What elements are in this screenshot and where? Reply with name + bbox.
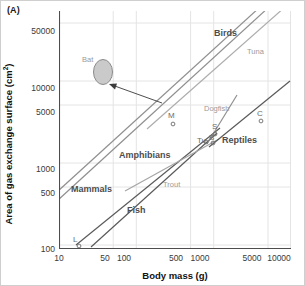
x-tick-label-100: 100 (111, 253, 137, 263)
y-tick-label-50000: 50000 (3, 26, 55, 36)
marker-dot-M (171, 122, 175, 126)
series-line-birds (59, 11, 260, 192)
annotation-dogfish: Dogfish (204, 105, 229, 113)
marker-label-L: L (73, 236, 77, 244)
marker-dot-C (259, 119, 263, 123)
annotation-bat: Bat (82, 56, 93, 64)
x-tick-label-1000: 1000 (185, 253, 215, 263)
annotation-birds: Birds (214, 29, 237, 38)
x-tick-label-10000: 10000 (261, 253, 297, 263)
y-tick-label-500: 500 (3, 188, 55, 198)
bat-ellipse (94, 60, 113, 85)
annotation-reptiles: Reptiles (222, 136, 257, 145)
annotation-trout: Trout (163, 181, 180, 189)
series-line-mammals (59, 11, 269, 201)
marker-label-S: S (212, 123, 217, 131)
x-axis-label: Body mass (g) (59, 270, 291, 281)
annotation-tuna: Tuna (247, 48, 264, 56)
marker-label-Tu: Tu (197, 137, 206, 145)
y-tick-label-1000: 1000 (3, 164, 55, 174)
marker-label-C: C (257, 110, 263, 118)
marker-label-B: B (209, 134, 214, 142)
annotation-amphibians: Amphibians (119, 151, 171, 160)
y-tick-label-10000: 10000 (3, 83, 55, 93)
plot-area: Birds Tuna Bat Dogfish Reptiles Amphibia… (59, 11, 291, 249)
annotation-fish: Fish (127, 206, 146, 215)
annotation-mammals: Mammals (71, 185, 112, 194)
x-tick-label-10: 10 (47, 253, 71, 263)
y-tick-label-5000: 5000 (3, 107, 55, 117)
marker-label-M: M (168, 112, 175, 120)
bat-arrow-line (112, 85, 162, 103)
figure-panel: (A) Area of gas exchange surface (cm2) B… (0, 0, 305, 286)
